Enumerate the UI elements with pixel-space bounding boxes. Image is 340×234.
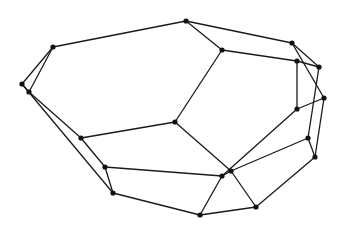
graph-node-I <box>321 95 326 100</box>
graph-node-A <box>50 44 55 49</box>
graph-node-F <box>289 40 294 45</box>
graph-node-P <box>312 154 317 159</box>
graph-edge-Q-S <box>231 171 256 207</box>
graph-diagram <box>0 0 340 234</box>
graph-edges <box>22 21 324 215</box>
graph-edge-K-Q <box>175 122 231 171</box>
graph-edge-C-L <box>29 92 81 138</box>
graph-edge-I-P <box>315 98 324 157</box>
graph-node-E <box>219 47 224 52</box>
graph-edge-D-F <box>186 21 292 43</box>
graph-node-B <box>19 81 24 86</box>
graph-node-H <box>316 64 321 69</box>
graph-edge-L-M <box>81 138 105 167</box>
graph-edge-T-S <box>200 207 256 215</box>
graph-node-L <box>78 135 83 140</box>
graph-edge-A-D <box>53 21 186 47</box>
graph-edge-P-S <box>256 157 315 207</box>
graph-node-J <box>294 106 299 111</box>
graph-node-K <box>172 119 177 124</box>
graph-nodes <box>19 18 326 217</box>
graph-node-R <box>219 173 224 178</box>
graph-node-C <box>26 89 31 94</box>
graph-edge-N-T <box>113 193 200 215</box>
graph-node-D <box>183 18 188 23</box>
graph-edge-J-R <box>222 109 297 176</box>
graph-edge-O-P <box>308 138 315 157</box>
graph-edge-R-T <box>200 176 222 215</box>
graph-edge-I-J <box>297 98 324 109</box>
graph-node-G <box>294 58 299 63</box>
graph-edge-A-C <box>29 47 53 92</box>
graph-node-T <box>197 212 202 217</box>
graph-edge-K-L <box>81 122 175 138</box>
graph-node-M <box>102 164 107 169</box>
graph-edge-M-R <box>105 167 222 176</box>
graph-node-Q <box>228 168 233 173</box>
graph-edge-E-G <box>222 50 297 61</box>
graph-edge-O-Q <box>231 138 308 171</box>
graph-edge-E-K <box>175 50 222 122</box>
graph-edge-B-N <box>22 84 113 193</box>
graph-edge-A-B <box>22 47 53 84</box>
graph-node-O <box>305 135 310 140</box>
graph-node-N <box>110 190 115 195</box>
graph-node-S <box>253 204 258 209</box>
